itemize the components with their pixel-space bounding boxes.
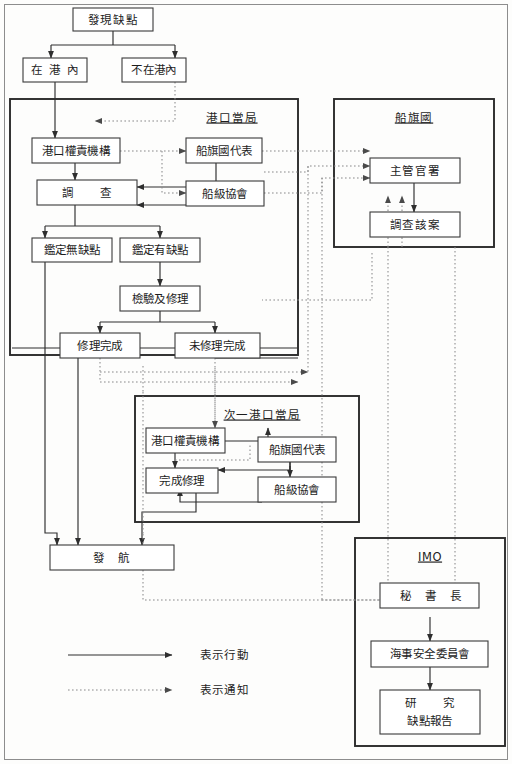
notice-to-imo-secretary-a	[143, 534, 410, 600]
node-imo-secretary[interactable]: 秘 書 長	[380, 583, 479, 608]
node-imo-msc-label: 海事安全委員會	[390, 647, 470, 661]
node-class-society[interactable]: 船級協會	[186, 181, 264, 206]
group-frame-port-authority	[10, 99, 298, 355]
node-has-defect-label: 鑑定有缺點	[132, 243, 190, 257]
node-flag-rep-label: 船旗國代表	[196, 144, 254, 158]
flowchart-canvas: 港口當局 船旗國 次一港口當局 IMO	[0, 0, 512, 764]
notice-rail-e	[262, 253, 372, 300]
legend-notice: 表示通知	[68, 683, 249, 697]
node-repair-not-done-label: 未修理完成	[189, 339, 247, 353]
node-next-repair-done-label: 完成修理	[159, 474, 205, 488]
node-imo-msc[interactable]: 海事安全委員會	[371, 641, 488, 667]
notice-repairdone-right	[100, 358, 298, 382]
node-no-defect[interactable]: 鑑定無缺點	[32, 238, 112, 262]
node-defect-found-label: 發現缺點	[88, 13, 138, 27]
node-next-authority[interactable]: 港口權責機構	[146, 428, 225, 453]
notice-notinport-to-portauthority	[95, 82, 175, 121]
notice-class2-to-admin	[264, 178, 370, 193]
node-not-in-port-label: 不在港內	[131, 63, 177, 77]
group-title-next-port-authority: 次一港口當局	[224, 408, 301, 422]
node-investigate-label: 調 查	[62, 186, 112, 200]
node-next-authority-label: 港口權責機構	[151, 434, 220, 448]
node-next-flag-rep[interactable]: 船旗國代表	[258, 437, 336, 462]
node-flag-investigate-case-label: 調查該案	[390, 218, 440, 232]
node-flag-admin[interactable]: 主管官署	[370, 158, 460, 183]
node-port-authority-org-label: 港口權責機構	[42, 144, 111, 158]
node-imo-secretary-label: 秘 書 長	[400, 589, 463, 603]
group-title-imo: IMO	[418, 550, 442, 564]
edge-nodefect-to-sailing	[45, 262, 57, 545]
node-repair-done-label: 修理完成	[77, 339, 123, 353]
group-title-flag-state: 船旗國	[395, 111, 433, 125]
node-class-society-label: 船級協會	[202, 187, 248, 201]
node-defect-found[interactable]: 發現缺點	[73, 8, 153, 31]
legend-action-label: 表示行動	[200, 648, 249, 662]
node-not-in-port[interactable]: 不在港內	[122, 58, 186, 82]
group-title-port-authority: 港口當局	[206, 111, 257, 125]
legend-notice-label: 表示通知	[200, 683, 249, 697]
node-has-defect[interactable]: 鑑定有缺點	[120, 238, 200, 262]
node-next-flag-rep-label: 船旗國代表	[269, 443, 327, 457]
node-next-repair-done[interactable]: 完成修理	[146, 468, 218, 493]
node-no-defect-label: 鑑定無缺點	[44, 243, 102, 257]
node-next-class-society[interactable]: 船級協會	[258, 477, 336, 502]
node-inspect-repair-label: 檢驗及修理	[132, 292, 190, 306]
node-imo-study-report[interactable]: 研 究 缺點報告	[380, 690, 480, 734]
node-sailing-label: 發 航	[93, 551, 131, 565]
node-repair-not-done[interactable]: 未修理完成	[175, 333, 260, 358]
node-sailing[interactable]: 發 航	[50, 545, 174, 570]
node-port-authority-org[interactable]: 港口權責機構	[32, 138, 120, 163]
edge-completed-to-sailing	[142, 489, 196, 545]
node-repair-done[interactable]: 修理完成	[60, 333, 140, 358]
node-flag-rep[interactable]: 船旗國代表	[186, 138, 262, 163]
node-inspect-repair[interactable]: 檢驗及修理	[120, 286, 200, 311]
node-imo-study-report-line2: 缺點報告	[407, 714, 453, 728]
node-flag-admin-label: 主管官署	[390, 164, 440, 178]
node-investigate[interactable]: 調 查	[37, 180, 137, 205]
node-next-class-society-label: 船級協會	[274, 483, 320, 497]
node-in-port[interactable]: 在 港 內	[23, 58, 87, 82]
node-imo-study-report-line1: 研 究	[405, 696, 455, 710]
legend-action: 表示行動	[68, 648, 249, 662]
notice-class-to-admin	[264, 166, 370, 172]
node-in-port-label: 在 港 內	[31, 63, 79, 77]
node-flag-investigate-case[interactable]: 調查該案	[370, 212, 460, 237]
flowchart-diagram: 港口當局 船旗國 次一港口當局 IMO	[0, 0, 512, 764]
